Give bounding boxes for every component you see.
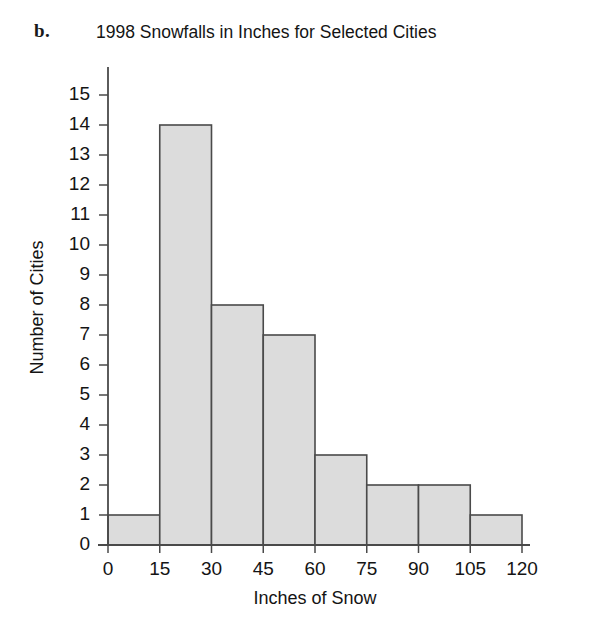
y-tick-label: 9 <box>50 263 90 285</box>
y-tick-label: 8 <box>50 293 90 315</box>
y-tick-label: 12 <box>50 173 90 195</box>
y-tick-label: 7 <box>50 323 90 345</box>
histogram-bar <box>263 335 315 545</box>
histogram-bar <box>108 515 160 545</box>
bars-group <box>108 125 522 545</box>
histogram-bar <box>419 485 471 545</box>
y-tick-label: 15 <box>50 83 90 105</box>
histogram-plot: 0123456789101112131415 01530456075901051… <box>0 0 598 630</box>
x-tick-label: 120 <box>492 558 552 580</box>
y-tick-label: 4 <box>50 413 90 435</box>
x-axis-label: Inches of Snow <box>185 588 445 609</box>
y-axis-label: Number of Cities <box>27 228 48 388</box>
y-tick-label: 1 <box>50 503 90 525</box>
y-tick-label: 11 <box>50 203 90 225</box>
y-tick-label: 3 <box>50 443 90 465</box>
histogram-bar <box>367 485 419 545</box>
histogram-bar <box>315 455 367 545</box>
y-tick-label: 6 <box>50 353 90 375</box>
y-tick-label: 2 <box>50 473 90 495</box>
histogram-bar <box>470 515 522 545</box>
histogram-bar <box>212 305 264 545</box>
histogram-bar <box>160 125 212 545</box>
y-tick-label: 10 <box>50 233 90 255</box>
y-tick-label: 5 <box>50 383 90 405</box>
y-tick-label: 14 <box>50 113 90 135</box>
y-tick-label: 0 <box>50 533 90 555</box>
y-tick-label: 13 <box>50 143 90 165</box>
